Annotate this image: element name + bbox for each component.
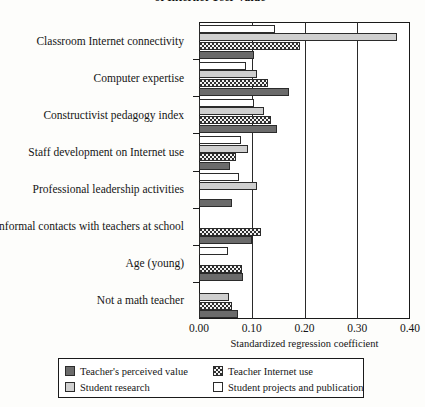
legend-entry[interactable]: Student research [65,382,213,393]
bar [199,302,232,310]
bar [199,62,246,70]
legend-swatch-icon [65,366,75,376]
bar [199,51,254,59]
y-axis-category-labels: Classroom Internet connectivityComputer … [0,22,196,319]
x-axis-tick-label: 0.40 [388,322,425,334]
legend-label: Teacher's perceived value [80,366,188,377]
y-axis-label: Staff development on Internet use [28,146,184,158]
legend-entry[interactable]: Teacher Internet use [213,366,364,377]
legend-entry[interactable]: Student projects and publication [213,382,364,393]
bar [199,182,257,190]
bar [199,265,242,273]
bar [199,199,232,207]
x-axis-tick-label: 0.20 [283,322,327,334]
bar [199,162,230,170]
bar [199,79,268,87]
bar [199,42,300,50]
y-axis-label: Constructivist pedagogy index [43,109,184,121]
bar [199,136,241,144]
x-axis-tick-label: 0.10 [230,322,274,334]
bar [199,107,264,115]
y-axis-label: Age (young) [126,257,184,269]
bar [199,70,257,78]
bar [199,293,229,301]
bar [199,125,277,133]
gridline [252,22,253,319]
bar [199,173,239,181]
legend-swatch-icon [213,382,223,392]
chart-title: of Internet User Value [0,0,420,3]
bar [199,247,228,255]
bar [199,310,238,318]
x-axis-tick-label: 0.00 [177,322,221,334]
legend-swatch-icon [213,366,223,376]
bar [199,153,236,161]
legend-label: Student research [80,382,150,393]
bar [199,228,261,236]
y-axis-label: Computer expertise [94,72,184,84]
legend-label: Teacher Internet use [228,366,313,377]
y-axis-label: Classroom Internet connectivity [36,35,184,47]
legend-label: Student projects and publication [228,382,364,393]
x-axis-tick-label: 0.30 [335,322,379,334]
bar [199,25,275,33]
bar [199,273,243,281]
y-axis-label: Not a math teacher [97,294,184,306]
legend-swatch-icon [65,382,75,392]
bar [199,236,252,244]
x-axis-title: Standardized regression coefficient [199,338,410,349]
legend-grid: Teacher's perceived valueTeacher Interne… [59,359,363,397]
gridline [305,22,306,319]
bar [199,116,271,124]
bar [199,88,289,96]
legend-entry[interactable]: Teacher's perceived value [65,366,213,377]
bar [199,33,397,41]
gridline [357,22,358,319]
legend: Teacher's perceived valueTeacher Interne… [58,358,364,398]
bar [199,99,254,107]
plot-area [199,22,410,319]
y-axis-label: Professional leadership activities [33,183,184,195]
y-axis-label: Informal contacts with teachers at schoo… [0,220,184,232]
bar [199,145,248,153]
